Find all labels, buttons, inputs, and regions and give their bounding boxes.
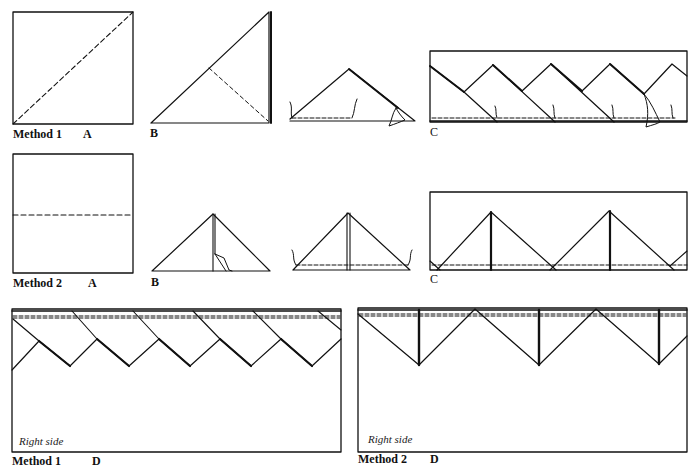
method2-step-d-finished xyxy=(358,308,687,452)
method2-step-b-triangle xyxy=(152,214,270,271)
method2-step-fold-triangle xyxy=(292,213,412,270)
method1-step-b-label: B xyxy=(150,127,158,139)
method1-step-d-label: D xyxy=(92,455,101,467)
method2-step-a-square xyxy=(13,154,133,273)
method1-step-c-strip xyxy=(430,51,687,127)
method2-label-row3: Method 2 xyxy=(358,453,407,465)
method1-right-side-note: Right side xyxy=(19,436,63,447)
method2-step-c-label: C xyxy=(430,273,438,285)
method1-label-row1: Method 1 xyxy=(13,128,62,140)
diagram-canvas xyxy=(0,0,691,471)
method1-step-a-square xyxy=(13,12,133,124)
method1-step-b-triangle xyxy=(151,12,271,123)
method1-step-fold-triangle xyxy=(290,69,415,126)
method1-step-c-label: C xyxy=(430,126,438,138)
method1-step-d-finished xyxy=(12,309,341,452)
method2-step-a-label: A xyxy=(88,277,97,289)
method2-right-side-note: Right side xyxy=(368,434,412,445)
method2-step-d-label: D xyxy=(430,453,439,465)
method2-step-b-label: B xyxy=(151,276,159,288)
method1-label-row3: Method 1 xyxy=(12,455,61,467)
method2-label-row2: Method 2 xyxy=(13,277,62,289)
method2-step-c-strip xyxy=(430,192,687,270)
method1-step-a-label: A xyxy=(83,128,92,140)
